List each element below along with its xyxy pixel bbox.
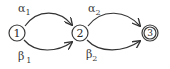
automaton-diagram: α1 β1 α2 β2 1 2 3 bbox=[0, 0, 170, 69]
state-1-label: 1 bbox=[14, 27, 21, 40]
edge-label-beta1-symbol: β bbox=[18, 50, 24, 63]
edge-1-2-alpha bbox=[25, 13, 72, 26]
edge-label-alpha1: α1 bbox=[18, 2, 31, 17]
edge-label-beta1-subscript: 1 bbox=[26, 56, 31, 65]
edge-label-alpha1-subscript: 1 bbox=[25, 8, 30, 17]
edge-1-2-beta bbox=[24, 40, 72, 50]
state-3-label: 3 bbox=[147, 28, 153, 38]
edge-label-alpha2-subscript: 2 bbox=[95, 8, 100, 17]
state-node-1: 1 bbox=[9, 25, 25, 41]
edge-2-3-beta bbox=[87, 40, 140, 50]
edge-label-beta2: β2 bbox=[86, 48, 97, 63]
edge-label-beta2-subscript: 2 bbox=[92, 54, 97, 63]
state-2-label: 2 bbox=[77, 27, 84, 40]
state-node-2: 2 bbox=[72, 25, 88, 41]
edge-label-alpha2: α2 bbox=[88, 2, 101, 17]
edge-label-beta1: β1 bbox=[18, 50, 31, 65]
state-node-3-accepting: 3 bbox=[142, 25, 158, 41]
